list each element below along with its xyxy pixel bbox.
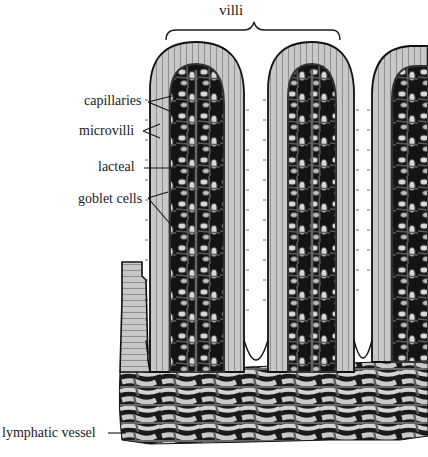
crypt-2	[354, 340, 372, 358]
villus-3-partial	[372, 46, 428, 362]
villus-2	[268, 42, 354, 372]
villus-1	[150, 42, 244, 372]
villus-stub	[120, 262, 150, 372]
villi-brace	[166, 22, 340, 40]
villi-illustration	[0, 0, 428, 457]
crypt-1	[244, 340, 268, 360]
